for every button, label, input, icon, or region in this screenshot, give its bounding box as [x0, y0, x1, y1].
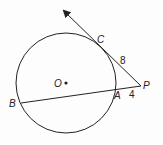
label-o: O [54, 78, 62, 89]
center-dot [64, 81, 67, 84]
tangent-ray-pc [64, 11, 141, 86]
label-b: B [9, 98, 16, 109]
label-c: C [97, 34, 105, 45]
secant-pb [21, 86, 141, 103]
length-pc: 8 [120, 55, 126, 66]
label-p: P [143, 80, 150, 91]
length-pa: 4 [129, 89, 135, 100]
diagram-canvas: O C P A B 8 4 [0, 0, 163, 145]
geometry-diagram: O C P A B 8 4 [0, 0, 163, 145]
label-a: A [113, 90, 121, 101]
